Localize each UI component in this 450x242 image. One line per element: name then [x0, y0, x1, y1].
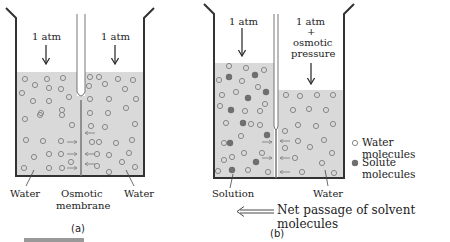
net-passage-text: Net passage of solvent molecules	[277, 203, 450, 231]
panel-a-left-pressure: 1 atm	[32, 31, 61, 42]
panel-a-membrane-label-2: membrane	[56, 200, 110, 211]
panel-b-solution-label: Solution	[212, 188, 254, 199]
panel-b-left-pressure: 1 atm	[229, 16, 258, 27]
panel-a-left-water-label: Water	[10, 188, 40, 199]
net-passage-arrow	[237, 207, 274, 217]
legend-solute-text: Solute molecules	[362, 156, 450, 180]
panel-a-membrane-label-1: Osmotic	[61, 188, 103, 199]
legend-solute-marker	[352, 160, 358, 166]
panel-b-right-pressure-2: +	[307, 26, 315, 37]
panel-b-right-pressure-4: pressure	[291, 48, 336, 59]
panel-b-water-label: Water	[313, 188, 343, 199]
cropped-caption	[24, 238, 84, 242]
panel-a-beaker	[6, 8, 154, 176]
panel-b-right-pressure-3: osmotic	[293, 37, 332, 48]
panel-b-beaker	[204, 4, 354, 178]
panel-a-label: (a)	[71, 223, 85, 234]
legend-water-marker	[352, 140, 357, 145]
panel-a-right-pressure: 1 atm	[101, 31, 130, 42]
panel-a-right-water-label: Water	[124, 188, 154, 199]
